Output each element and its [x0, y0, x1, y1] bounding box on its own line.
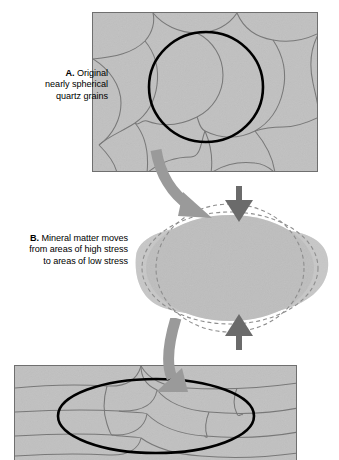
- caption-a-line1: Original: [77, 68, 108, 78]
- stress-arrow-down-icon: [222, 186, 256, 222]
- caption-b-line1: Mineral matter moves: [42, 233, 128, 243]
- caption-a-line2: nearly spherical: [45, 79, 108, 89]
- caption-stage-a: A. Original nearly spherical quartz grai…: [4, 68, 108, 102]
- caption-b-letter: B.: [30, 233, 39, 243]
- caption-a-letter: A.: [66, 68, 75, 78]
- caption-b-line2: from areas of high stress: [29, 244, 128, 254]
- caption-stage-b: B. Mineral matter moves from areas of hi…: [4, 233, 128, 267]
- caption-a-line3: quartz grains: [56, 91, 108, 101]
- stress-arrow-up-icon: [222, 310, 256, 350]
- caption-b-line3: to areas of low stress: [43, 256, 128, 266]
